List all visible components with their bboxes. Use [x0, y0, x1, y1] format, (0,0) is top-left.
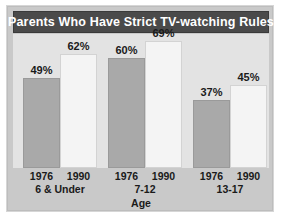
year-label-1990-13-17: 1990	[230, 170, 267, 182]
bar-value-1976-7-12: 60%	[108, 44, 145, 56]
axis-label-band: 1976 1990 6 & Under 1976 1990 7-12 1976 …	[13, 168, 269, 207]
chart-title: Parents Who Have Strict TV-watching Rule…	[8, 15, 274, 29]
bar-value-1990-6-and-under: 62%	[60, 40, 97, 52]
bar-value-1990-13-17: 45%	[230, 71, 267, 83]
chart-frame: Parents Who Have Strict TV-watching Rule…	[7, 6, 273, 211]
bar-1976-6-and-under[interactable]	[23, 78, 60, 168]
bar-value-1990-7-12: 69%	[145, 27, 182, 39]
bar-value-1976-6-and-under: 49%	[23, 64, 60, 76]
year-label-1976-7-12: 1976	[108, 170, 145, 182]
chart-title-bar: Parents Who Have Strict TV-watching Rule…	[13, 11, 269, 33]
bar-group-7-12: 60% 69%	[108, 34, 182, 168]
bar-value-1976-13-17: 37%	[193, 86, 230, 98]
x-axis-title: Age	[13, 197, 269, 209]
bar-1990-6-and-under[interactable]	[60, 54, 97, 168]
bar-group-13-17: 37% 45%	[193, 34, 267, 168]
group-label-13-17: 13-17	[193, 183, 267, 195]
year-label-1976-13-17: 1976	[193, 170, 230, 182]
group-label-7-12: 7-12	[108, 183, 182, 195]
year-label-1990-7-12: 1990	[145, 170, 182, 182]
bar-1990-7-12[interactable]	[145, 41, 182, 168]
year-label-1976-6-and-under: 1976	[23, 170, 60, 182]
plot-area: 49% 62% 60% 69% 37%	[13, 34, 269, 168]
group-label-6-and-under: 6 & Under	[23, 183, 97, 195]
year-label-1990-6-and-under: 1990	[60, 170, 97, 182]
bar-1976-13-17[interactable]	[193, 100, 230, 168]
bar-group-6-and-under: 49% 62%	[23, 34, 97, 168]
bar-1990-13-17[interactable]	[230, 85, 267, 168]
bar-1976-7-12[interactable]	[108, 58, 145, 168]
